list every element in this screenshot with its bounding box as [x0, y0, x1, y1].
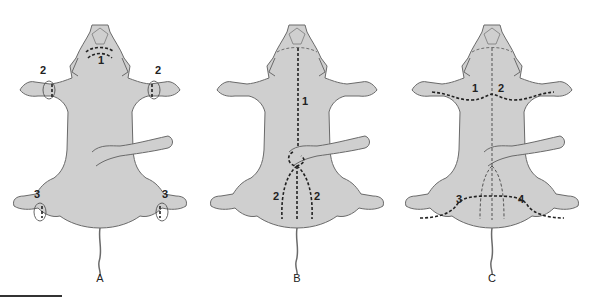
panel-a: 1 2 2 3 3 A [0, 0, 200, 300]
incision-label: 2 [40, 64, 46, 76]
incision-label: 2 [155, 64, 161, 76]
panel-label-a: A [0, 272, 200, 284]
panel-label-b: B [197, 272, 397, 284]
incision-label: 2 [314, 190, 320, 202]
pig-outline-a [0, 0, 200, 300]
incision-label: 3 [456, 193, 462, 205]
incision-label: 2 [498, 82, 504, 94]
panel-b: 1 2 2 B [197, 0, 397, 300]
panel-label-c: C [392, 272, 592, 284]
incision-label: 4 [518, 193, 524, 205]
incision-label: 3 [162, 188, 168, 200]
footnote-rule [0, 295, 62, 297]
pig-outline-c [392, 0, 592, 300]
incision-label: 1 [302, 95, 308, 107]
panel-c: 1 2 3 4 C [392, 0, 592, 300]
incision-label: 1 [98, 54, 104, 66]
incision-label: 2 [273, 190, 279, 202]
incision-label: 1 [472, 82, 478, 94]
incision-label: 3 [34, 188, 40, 200]
pig-outline-b [197, 0, 397, 300]
